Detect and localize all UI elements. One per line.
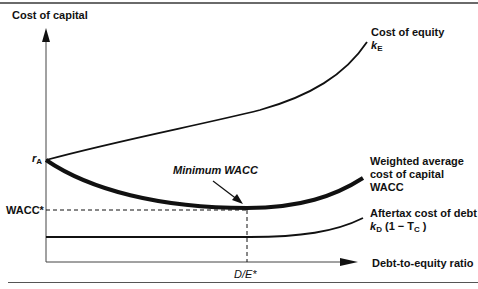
y-axis-label: Cost of capital [12,9,88,22]
debt-label: Aftertax cost of debt kD (1 − TC ) [370,207,477,236]
cost-of-debt-curve [46,218,363,237]
wacc-label-line1: Weighted average [370,155,464,168]
r-a-tick: rA [32,152,42,168]
wacc-label-line3: WACC [370,181,464,194]
min-wacc-arrow-icon [232,194,243,204]
equity-title: Cost of equity [371,26,444,39]
cost-of-equity-curve [46,42,367,160]
equity-symbol-sub: E [377,44,382,53]
equity-label: Cost of equity kE [371,26,444,55]
debt-symbol-rest: (1 − T [382,220,414,232]
x-axis-label: Debt-to-equity ratio [372,257,473,270]
debt-title: Aftertax cost of debt [370,207,477,220]
r-a-subscript: A [36,157,42,166]
debt-symbol-end: ) [420,220,427,232]
wacc-label: Weighted average cost of capital WACC [370,155,464,194]
y-axis-arrow-icon [42,28,50,42]
wacc-star-tick: WACC* [6,204,44,217]
min-wacc-annotation: Minimum WACC [173,164,258,177]
x-axis-arrow-icon [340,258,358,266]
min-wacc-pointer [213,181,238,200]
debt-symbol: kD (1 − TC ) [370,220,477,236]
wacc-label-line2: cost of capital [370,168,464,181]
equity-symbol: kE [371,39,444,55]
de-star-tick: D/E* [234,268,257,281]
